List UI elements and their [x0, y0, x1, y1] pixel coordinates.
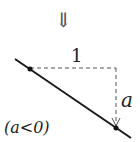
- start-point: [28, 67, 33, 72]
- run-label: 1: [71, 45, 82, 66]
- end-point: [114, 126, 119, 131]
- rise-label: a: [121, 88, 133, 112]
- condition-label: (a<0): [4, 118, 50, 137]
